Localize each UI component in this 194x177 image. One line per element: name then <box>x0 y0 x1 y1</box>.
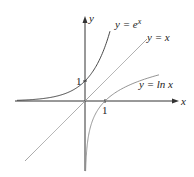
chart: xy11y = exy = xy = ln x <box>0 0 194 177</box>
y-tick-label: 1 <box>76 75 82 87</box>
y-axis-label: y <box>88 12 94 24</box>
series-label-exp: y = ex <box>114 17 142 30</box>
x-axis-arrow-icon <box>172 99 179 104</box>
y-axis-arrow-icon <box>83 16 88 23</box>
series-label-identity: y = x <box>146 31 170 43</box>
series-identity-line <box>25 39 147 161</box>
x-axis-label: x <box>180 95 186 107</box>
series-label-ln: y = ln x <box>138 78 173 90</box>
x-tick-label: 1 <box>102 104 108 116</box>
